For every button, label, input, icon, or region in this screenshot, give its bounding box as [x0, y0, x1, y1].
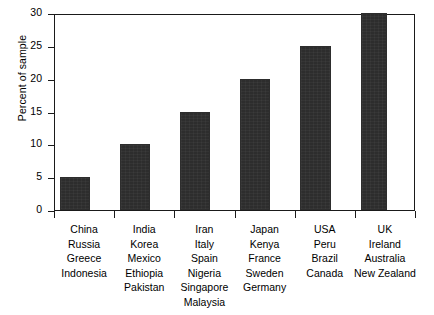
x-axis-tick-mark: [415, 211, 416, 218]
category-label-line: Malaysia: [168, 295, 240, 310]
category-label-line: New Zealand: [349, 266, 421, 281]
category-label-line: Australia: [349, 251, 421, 266]
category-label-line: UK: [349, 222, 421, 237]
y-axis-tick-label: 25: [30, 39, 42, 51]
bar: [180, 112, 210, 211]
category-label-line: Germany: [229, 280, 301, 295]
x-axis-tick-mark: [295, 211, 296, 218]
x-axis-tick-mark: [174, 211, 175, 218]
x-axis-tick-mark: [54, 211, 55, 218]
y-axis-tick-label: 10: [30, 137, 42, 149]
bar: [300, 46, 330, 210]
bar: [120, 144, 150, 210]
y-axis-title: Percent of sample: [16, 8, 28, 148]
y-axis-tick-label: 15: [30, 105, 42, 117]
y-axis-tick-label: 30: [30, 6, 42, 18]
category-label-line: Ireland: [349, 237, 421, 252]
y-axis-tick-label: 20: [30, 72, 42, 84]
x-axis-tick-mark: [355, 211, 356, 218]
bar: [361, 13, 387, 210]
x-axis-tick-mark: [235, 211, 236, 218]
y-axis-tick-label: 5: [36, 170, 42, 182]
plot-area: [54, 14, 415, 211]
bar: [240, 79, 270, 210]
bar: [60, 177, 90, 210]
bar-chart-figure: Percent of sample 051015202530 ChinaRuss…: [0, 0, 434, 315]
y-axis-tick-label: 0: [36, 203, 42, 215]
x-axis-tick-mark: [114, 211, 115, 218]
x-axis-category-label: UKIrelandAustraliaNew Zealand: [349, 222, 421, 280]
